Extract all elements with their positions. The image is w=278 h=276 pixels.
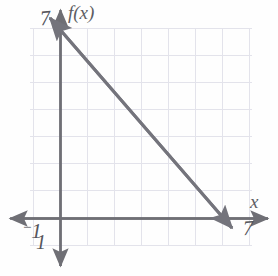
y-axis-tick-label-7: 7 — [39, 8, 52, 30]
y-axis-function-label: f(x) — [68, 3, 94, 22]
x-axis-variable-label: x — [250, 192, 258, 211]
x-axis-tick-label-7: 7 — [242, 218, 254, 240]
graph-figure: f(x) x 7 7 −1 1 — [0, 0, 278, 276]
y-axis-tick-label-1: 1 — [36, 232, 46, 252]
